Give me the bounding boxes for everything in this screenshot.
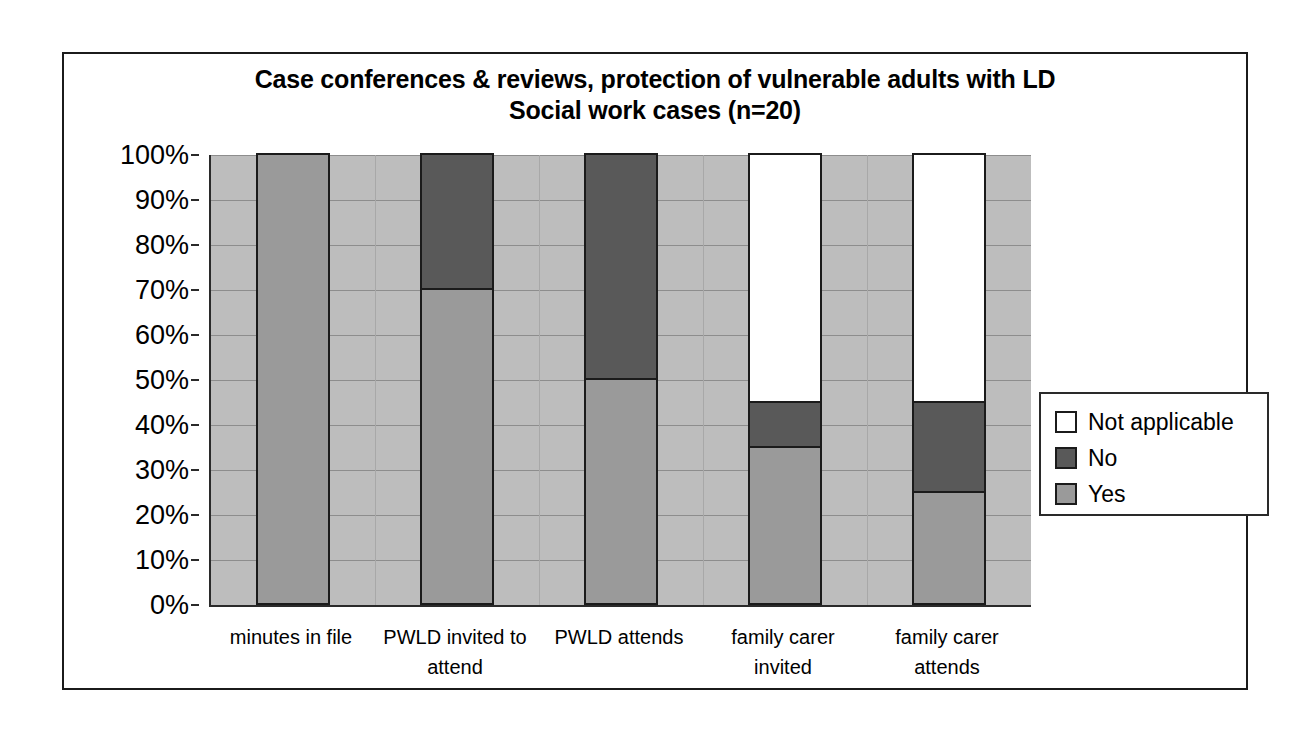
y-axis-tick-mark [191,559,199,561]
y-axis-tick-label: 0% [150,592,189,619]
x-axis-tick-label-line: family carer [701,622,865,652]
bar-segment-yes[interactable] [912,491,986,606]
y-axis-tick-mark [191,424,199,426]
y-axis-tick-label: 10% [135,547,189,574]
y-axis-tick-label: 50% [135,367,189,394]
legend-swatch-icon [1055,447,1077,469]
chart-title: Case conferences & reviews, protection o… [62,64,1248,126]
bar-segment-yes[interactable] [420,288,494,605]
chart-title-line-2: Social work cases (n=20) [62,95,1248,126]
x-axis-tick-label-line: minutes in file [209,622,373,652]
category-separator [703,155,704,605]
x-axis: minutes in filePWLD invited toattendPWLD… [209,622,1029,692]
bar-segment-yes[interactable] [256,153,330,605]
y-axis-tick-label: 30% [135,457,189,484]
x-axis-tick-label: family carerinvited [701,622,865,682]
legend-item-label: Yes [1088,483,1126,506]
y-axis-tick-label: 20% [135,502,189,529]
legend-swatch-icon [1055,483,1077,505]
bar-segment-no[interactable] [584,153,658,380]
bar-segment-no[interactable] [420,153,494,290]
y-axis-tick-mark [191,604,199,606]
y-axis-tick-label: 60% [135,322,189,349]
x-axis-tick-label: PWLD invited toattend [373,622,537,682]
category-separator [539,155,540,605]
legend-item-label: No [1088,447,1117,470]
x-axis-tick-label: minutes in file [209,622,373,652]
category-separator [867,155,868,605]
y-axis-tick-mark [191,469,199,471]
x-axis-tick-label-line: PWLD invited to [373,622,537,652]
bar-segment-no[interactable] [748,401,822,448]
x-axis-tick-label-line: PWLD attends [537,622,701,652]
y-axis-tick-label: 90% [135,187,189,214]
x-axis-tick-label: family carerattends [865,622,1029,682]
bar-segment-yes[interactable] [748,446,822,606]
x-axis-tick-label-line: attend [373,652,537,682]
y-axis-tick-label: 80% [135,232,189,259]
legend-item[interactable]: Yes [1055,476,1267,512]
x-axis-tick-label: PWLD attends [537,622,701,652]
y-axis-tick-mark [191,289,199,291]
bar-segment-no[interactable] [912,401,986,493]
plot-area [209,155,1031,607]
y-axis-tick-mark [191,244,199,246]
legend-item[interactable]: Not applicable [1055,404,1267,440]
x-axis-tick-label-line: family carer [865,622,1029,652]
x-axis-tick-label-line: attends [865,652,1029,682]
bar-group[interactable] [256,155,330,605]
y-axis-tick-mark [191,514,199,516]
category-separator [375,155,376,605]
legend-item[interactable]: No [1055,440,1267,476]
bar-group[interactable] [584,155,658,605]
chart-title-line-1: Case conferences & reviews, protection o… [255,65,1056,93]
legend-swatch-icon [1055,411,1077,433]
x-axis-tick-label-line: invited [701,652,865,682]
y-axis-tick-label: 70% [135,277,189,304]
y-axis-tick-mark [191,334,199,336]
bar-segment-yes[interactable] [584,378,658,605]
y-axis-tick-mark [191,379,199,381]
bar-group[interactable] [420,155,494,605]
bar-segment-not-applicable[interactable] [748,153,822,403]
chart-legend: Not applicableNoYes [1039,392,1269,516]
y-axis-tick-mark [191,199,199,201]
bar-segment-not-applicable[interactable] [912,153,986,403]
bar-group[interactable] [912,155,986,605]
bar-group[interactable] [748,155,822,605]
y-axis-tick-label: 40% [135,412,189,439]
y-axis: 100%90%80%70%60%50%40%30%20%10%0% [95,155,199,605]
y-axis-tick-mark [191,154,199,156]
y-axis-tick-label: 100% [120,142,189,169]
legend-item-label: Not applicable [1088,411,1234,434]
